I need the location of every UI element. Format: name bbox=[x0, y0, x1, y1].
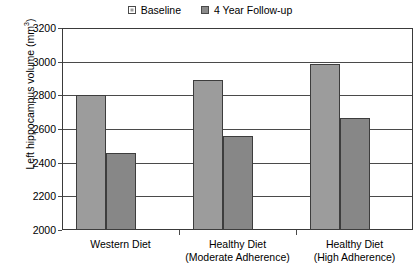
bars-layer bbox=[62, 28, 413, 230]
x-axis-label-0: Western Diet bbox=[62, 238, 179, 251]
y-tick-label: 2800 bbox=[8, 90, 56, 101]
bar-baseline-group-1 bbox=[193, 80, 223, 230]
legend-label-followup: 4 Year Follow-up bbox=[214, 5, 292, 16]
chart-legend: Baseline 4 Year Follow-up bbox=[0, 2, 420, 18]
bar-baseline-group-2 bbox=[310, 64, 340, 230]
bar-followup-group-1 bbox=[223, 136, 253, 230]
y-tick-mark bbox=[58, 230, 62, 231]
bar-baseline-group-0 bbox=[76, 95, 106, 230]
y-tick-label: 2000 bbox=[8, 225, 56, 236]
x-axis-label-line1: Healthy Diet bbox=[296, 238, 413, 251]
x-axis-label-line2: (Moderate Adherence) bbox=[179, 251, 296, 264]
legend-item-baseline[interactable]: Baseline bbox=[128, 5, 181, 16]
legend-label-baseline: Baseline bbox=[141, 5, 181, 16]
x-axis-label-2: Healthy Diet(High Adherence) bbox=[296, 238, 413, 264]
x-axis-label-line2: (High Adherence) bbox=[296, 251, 413, 264]
bar-followup-group-2 bbox=[340, 118, 370, 230]
x-axis-labels: Western DietHealthy Diet(Moderate Adhere… bbox=[62, 238, 413, 272]
x-axis-label-line1: Western Diet bbox=[62, 238, 179, 251]
baseline-swatch-icon bbox=[128, 6, 136, 14]
y-tick-label: 2200 bbox=[8, 191, 56, 202]
x-axis-tick bbox=[179, 230, 180, 235]
y-tick-label: 3200 bbox=[8, 23, 56, 34]
x-axis-label-line1: Healthy Diet bbox=[179, 238, 296, 251]
followup-swatch-icon bbox=[201, 6, 209, 14]
y-tick-label: 2400 bbox=[8, 158, 56, 169]
x-axis-label-1: Healthy Diet(Moderate Adherence) bbox=[179, 238, 296, 264]
y-tick-label: 3000 bbox=[8, 57, 56, 68]
y-tick-label: 2600 bbox=[8, 124, 56, 135]
legend-item-followup[interactable]: 4 Year Follow-up bbox=[201, 5, 292, 16]
bar-chart: Baseline 4 Year Follow-up Left hippocamp… bbox=[0, 0, 420, 274]
x-axis-tick bbox=[296, 230, 297, 235]
bar-followup-group-0 bbox=[106, 153, 136, 230]
